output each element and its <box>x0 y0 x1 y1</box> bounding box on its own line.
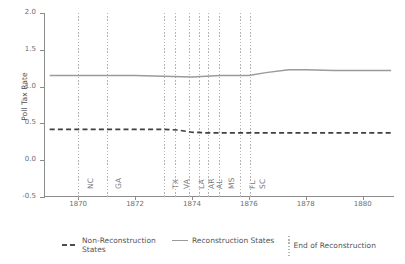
x-tick-label: 1874 <box>172 201 212 208</box>
y-tick-mark <box>40 197 45 198</box>
legend-label: End of Reconstruction <box>294 241 376 250</box>
chart-legend: Non-Reconstruction StatesReconstruction … <box>0 232 405 264</box>
series-lines <box>44 13 394 197</box>
legend-label: Non-Reconstruction States <box>82 236 178 255</box>
legend-item[interactable]: End of Reconstruction <box>288 236 376 256</box>
legend-item[interactable]: Non-Reconstruction States <box>62 236 178 255</box>
legend-swatch-dash-icon <box>62 244 78 246</box>
legend-swatch-solid-icon <box>172 240 188 241</box>
y-tick-label: 1.0 <box>6 83 36 90</box>
y-tick-label: 1.5 <box>6 46 36 53</box>
legend-item[interactable]: Reconstruction States <box>172 236 274 245</box>
series-path <box>50 129 391 133</box>
x-tick-label: 1872 <box>115 201 155 208</box>
y-axis-title: Poll Tax Rate <box>20 37 29 157</box>
x-tick-label: 1878 <box>286 201 326 208</box>
plot-area: NCGATXVALAARALMSFLSC <box>44 13 394 197</box>
y-tick-label: 0.0 <box>6 156 36 163</box>
x-tick-label: 1880 <box>343 201 383 208</box>
y-tick-label: 0.5 <box>6 119 36 126</box>
legend-label: Reconstruction States <box>192 236 274 245</box>
chart-figure: Poll Tax Rate 2.01.51.00.50.0-0.5 187018… <box>0 0 405 264</box>
x-tick-label: 1870 <box>58 201 98 208</box>
y-tick-label: -0.5 <box>6 193 36 200</box>
x-tick-label: 1876 <box>229 201 269 208</box>
series-path <box>50 70 391 77</box>
legend-swatch-dot-icon <box>288 236 290 256</box>
y-tick-label: 2.0 <box>6 9 36 16</box>
